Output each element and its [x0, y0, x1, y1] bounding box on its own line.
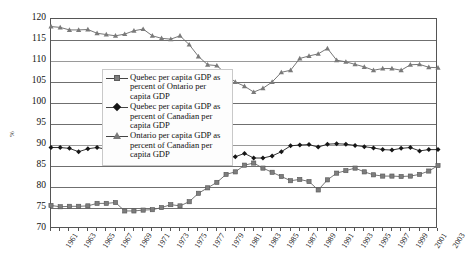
data-point [297, 143, 302, 148]
data-point [316, 145, 321, 150]
data-point [141, 208, 145, 212]
data-point [123, 209, 127, 213]
data-point [343, 142, 348, 147]
x-axis-tick-labels: 1961196319651967196919711973197519771979… [50, 228, 437, 267]
data-point [113, 200, 117, 204]
x-tickmark-1991 [326, 228, 327, 231]
data-point [67, 204, 71, 208]
x-tick-1995: 1995 [378, 232, 393, 250]
data-point [307, 142, 312, 147]
x-tickmark-1989 [308, 228, 309, 231]
data-point [187, 200, 191, 204]
data-point [325, 46, 330, 51]
data-point [215, 180, 219, 184]
legend-item-0[interactable]: Quebec per capita GDP as percent of Onta… [106, 73, 228, 101]
x-tickmark-1978 [207, 228, 208, 231]
data-point [76, 149, 81, 154]
data-point [58, 205, 62, 209]
data-point [95, 145, 100, 150]
series-line-0 [51, 163, 438, 211]
x-tickmark-2000 [409, 228, 410, 231]
y-tick-110: 110 [6, 55, 46, 65]
data-point [298, 177, 302, 181]
data-point [334, 141, 339, 146]
data-point [85, 146, 90, 151]
data-point [288, 179, 292, 183]
legend-item-1[interactable]: Quebec per capita GDP as percent of Cana… [106, 102, 228, 130]
data-point [242, 151, 247, 156]
data-point [252, 161, 256, 165]
x-tick-1999: 1999 [415, 232, 430, 250]
data-point [417, 172, 421, 176]
data-point [150, 33, 155, 38]
x-tickmark-1966 [96, 228, 97, 231]
x-tickmark-1998 [391, 228, 392, 231]
x-tick-1977: 1977 [212, 232, 227, 250]
data-point [316, 188, 320, 192]
x-tickmark-1986 [280, 228, 281, 231]
data-point [77, 204, 81, 208]
x-tick-2003: 2003 [452, 232, 467, 250]
x-tick-1963: 1963 [83, 232, 98, 250]
data-point [408, 145, 413, 150]
x-tickmark-1964 [78, 228, 79, 231]
data-point [426, 147, 431, 152]
data-point [141, 26, 146, 31]
data-point [58, 145, 63, 150]
x-tick-1967: 1967 [120, 232, 135, 250]
x-tick-1965: 1965 [101, 232, 116, 250]
x-tickmark-1962 [59, 228, 60, 231]
x-tickmark-1973 [161, 228, 162, 231]
x-tick-1969: 1969 [138, 232, 153, 250]
data-point [279, 149, 284, 154]
data-point [86, 204, 90, 208]
x-tick-1991: 1991 [341, 232, 356, 250]
x-tickmark-1993 [345, 228, 346, 231]
x-tick-1993: 1993 [359, 232, 374, 250]
x-tickmark-1975 [179, 228, 180, 231]
data-point [233, 170, 237, 174]
data-point [260, 86, 265, 91]
x-tickmark-1972 [151, 228, 152, 231]
y-tick-95: 95 [6, 118, 46, 128]
x-tickmark-1987 [290, 228, 291, 231]
x-tickmark-1997 [382, 228, 383, 231]
x-tickmark-1971 [142, 228, 143, 231]
x-tick-1973: 1973 [175, 232, 190, 250]
series-0 [49, 161, 440, 213]
data-point [48, 24, 53, 29]
data-point [279, 174, 283, 178]
x-tickmark-1990 [317, 228, 318, 231]
y-axis-tick-labels: 120115110105100959085807570 [0, 18, 46, 228]
data-point [67, 146, 72, 151]
x-tickmark-1985 [271, 228, 272, 231]
legend-label-2: Ontario per capita GDP as percent of Can… [130, 131, 228, 159]
x-tickmark-1976 [188, 228, 189, 231]
x-tickmark-1981 [234, 228, 235, 231]
x-tick-1961: 1961 [65, 232, 80, 250]
data-point [178, 204, 182, 208]
x-tickmark-1983 [253, 228, 254, 231]
data-point [270, 170, 274, 174]
data-point [169, 203, 173, 207]
legend-item-2[interactable]: Ontario per capita GDP as percent of Can… [106, 131, 228, 159]
x-tickmark-1999 [400, 228, 401, 231]
x-tickmark-1988 [299, 228, 300, 231]
x-tickmark-1984 [262, 228, 263, 231]
legend-marker-square-icon [106, 73, 128, 84]
x-tickmark-2002 [428, 228, 429, 231]
data-point [381, 174, 385, 178]
data-point [325, 178, 329, 182]
x-tick-1981: 1981 [249, 232, 264, 250]
legend-label-0: Quebec per capita GDP as percent of Onta… [130, 73, 228, 101]
data-point [316, 51, 321, 56]
x-tick-1979: 1979 [230, 232, 245, 250]
x-tickmark-1977 [197, 228, 198, 231]
x-tickmark-1994 [354, 228, 355, 231]
data-point [436, 147, 441, 152]
data-point [390, 174, 394, 178]
chart-legend: Quebec per capita GDP as percent of Onta… [102, 69, 233, 166]
x-tickmark-1974 [170, 228, 171, 231]
data-point [436, 163, 440, 167]
